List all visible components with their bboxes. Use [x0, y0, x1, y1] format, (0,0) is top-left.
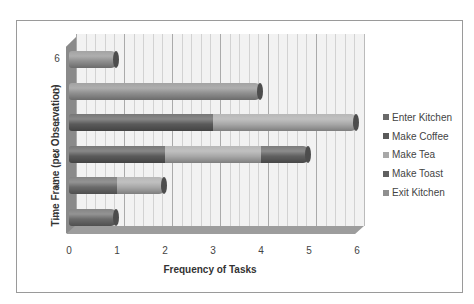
bar-end-cap — [353, 114, 359, 131]
x-tick-label: 6 — [350, 245, 364, 256]
y-tick-label: 1 — [52, 211, 62, 222]
x-tick-label: 4 — [254, 245, 268, 256]
y-tick-label: 3 — [52, 148, 62, 159]
y-tick-label: 4 — [52, 116, 62, 127]
y-tick-label: 2 — [52, 179, 62, 190]
bar-end-cap — [257, 83, 263, 100]
bar-end-cap — [113, 51, 119, 68]
x-tick-label: 5 — [302, 245, 316, 256]
bar-row-6 — [69, 51, 117, 68]
legend-item-enter-kitchen: Enter Kitchen — [383, 108, 452, 127]
bar-row-1 — [69, 209, 117, 226]
bar-segment-make-tea — [213, 114, 357, 131]
legend-item-exit-kitchen: Exit Kitchen — [383, 183, 452, 202]
legend: Enter Kitchen Make Coffee Make Tea Make … — [383, 108, 452, 202]
x-tick-label: 1 — [110, 245, 124, 256]
bar-segment-make-coffee — [69, 114, 213, 131]
bar-end-cap — [305, 146, 311, 163]
legend-item-make-coffee: Make Coffee — [383, 127, 452, 146]
y-tick-label: 5 — [52, 85, 62, 96]
bar-end-cap — [113, 209, 119, 226]
bar-row-2 — [69, 177, 165, 194]
bar-segment-exit-kitchen — [69, 51, 117, 68]
bar-end-cap — [161, 177, 167, 194]
bar-segment-exit-kitchen — [69, 83, 261, 100]
bar-segment-make-tea — [117, 177, 165, 194]
legend-item-make-tea: Make Tea — [383, 146, 452, 165]
legend-swatch — [383, 152, 389, 158]
legend-item-make-toast: Make Toast — [383, 164, 452, 183]
bar-segment-make-coffee — [69, 146, 165, 163]
x-tick-label: 0 — [62, 245, 76, 256]
bar-segment-make-toast — [261, 146, 309, 163]
bar-row-5 — [69, 83, 261, 100]
bar-segment-make-tea — [165, 146, 261, 163]
bar-row-3 — [69, 146, 309, 163]
chart-floor — [66, 226, 364, 234]
legend-swatch — [383, 133, 389, 139]
y-tick-label: 6 — [52, 53, 62, 64]
x-tick-label: 3 — [206, 245, 220, 256]
bar-segment-enter-kitchen — [69, 209, 117, 226]
legend-swatch — [383, 171, 389, 177]
x-axis-label: Frequency of Tasks — [150, 264, 270, 275]
bar-row-4 — [69, 114, 357, 131]
legend-swatch — [383, 190, 389, 196]
bar-segment-enter-kitchen — [69, 177, 117, 194]
x-tick-label: 2 — [158, 245, 172, 256]
legend-swatch — [383, 114, 389, 120]
